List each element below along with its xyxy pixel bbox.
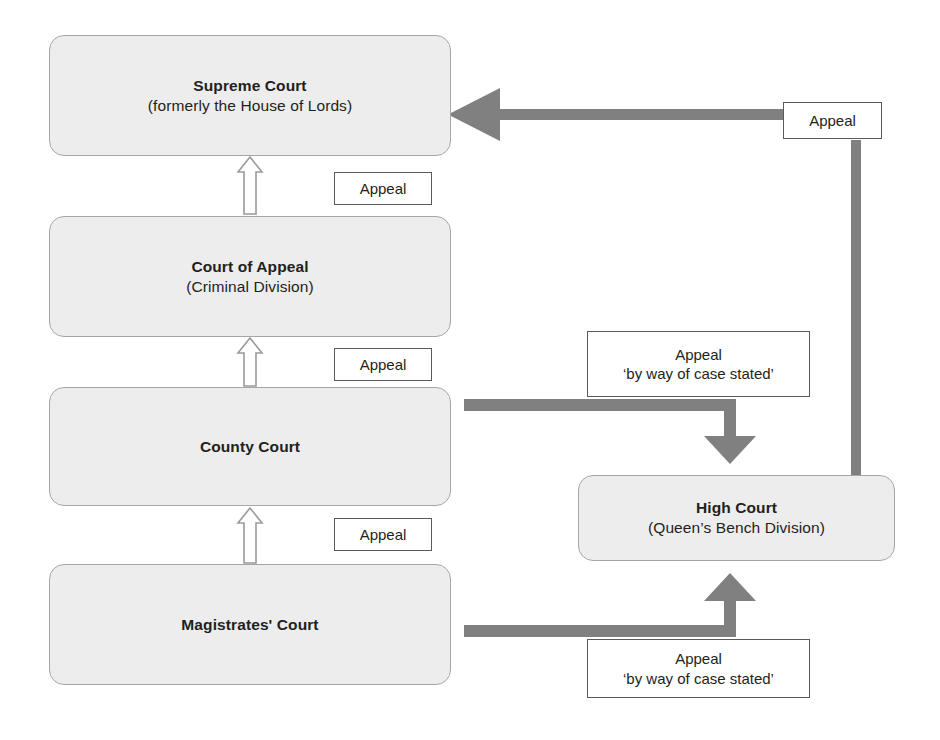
label-appeal-case-stated-county-court: Appeal ‘by way of case stated’ [587,331,810,397]
label-text-line1: Appeal [675,649,722,669]
court-subtitle-high-court: (Queen’s Bench Division) [648,518,825,538]
connector-magistrates-court-to-county-court [238,508,262,563]
court-box-county-court[interactable]: County Court [49,387,451,506]
court-subtitle-court-of-appeal: (Criminal Division) [186,277,314,297]
connector-court-of-appeal-to-supreme-court [238,157,262,214]
label-appeal-court-of-appeal-to-supreme-court: Appeal [334,172,432,205]
court-subtitle-supreme-court: (formerly the House of Lords) [148,96,352,116]
court-box-court-of-appeal[interactable]: Court of Appeal (Criminal Division) [49,216,451,337]
label-text: Appeal [360,525,407,545]
court-title-magistrates-court: Magistrates' Court [181,615,318,635]
label-text: Appeal [360,179,407,199]
court-box-magistrates-court[interactable]: Magistrates' Court [49,564,451,685]
label-text-line2: ‘by way of case stated’ [623,364,774,384]
court-hierarchy-diagram: Supreme Court (formerly the House of Lor… [0,0,940,740]
label-text: Appeal [360,355,407,375]
label-appeal-case-stated-magistrates-court: Appeal ‘by way of case stated’ [587,639,810,698]
court-title-county-court: County Court [200,437,300,457]
connector-high-court-to-supreme-court [448,88,861,476]
court-title-supreme-court: Supreme Court [193,76,306,96]
connector-magistrates-court-to-high-court [464,573,756,637]
label-text-line2: ‘by way of case stated’ [623,669,774,689]
connector-county-court-to-court-of-appeal [238,338,262,386]
court-box-supreme-court[interactable]: Supreme Court (formerly the House of Lor… [49,35,451,156]
court-title-high-court: High Court [696,498,777,518]
court-title-court-of-appeal: Court of Appeal [191,257,308,277]
label-appeal-magistrates-court-to-county-court: Appeal [334,518,432,551]
connector-county-court-to-high-court [464,399,756,464]
label-appeal-county-court-to-court-of-appeal: Appeal [334,348,432,381]
label-text-line1: Appeal [675,345,722,365]
label-text: Appeal [809,111,856,131]
label-appeal-high-court-to-supreme-court: Appeal [783,102,882,139]
court-box-high-court[interactable]: High Court (Queen’s Bench Division) [578,475,895,561]
